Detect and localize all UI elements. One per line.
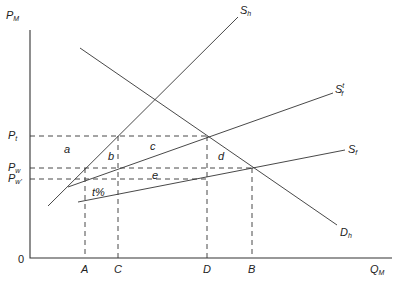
quantity-labels: ACDB xyxy=(80,263,255,275)
curve-Sf_tariff xyxy=(68,93,333,187)
curve-label-Sf_tariff: Stf xyxy=(335,82,345,97)
area-label: d xyxy=(218,150,225,162)
area-label: t% xyxy=(92,186,105,198)
x-axis-label: QM xyxy=(370,263,385,276)
curves: ShStfSfDh xyxy=(48,4,358,239)
curve-label-Sf: Sf xyxy=(348,143,358,156)
curve-Dh xyxy=(80,48,337,225)
area-label: a xyxy=(64,143,70,155)
axes xyxy=(30,30,392,258)
quantity-label: C xyxy=(114,263,122,275)
quantity-label: D xyxy=(203,263,211,275)
area-label: b xyxy=(108,150,114,162)
quantity-label: A xyxy=(80,263,88,275)
diagram-canvas: ShStfSfDh PM QM 0 PtPwPw' ACDB abcdet% xyxy=(0,0,401,282)
tariff-diagram: ShStfSfDh PM QM 0 PtPwPw' ACDB abcdet% xyxy=(0,0,401,282)
origin-label: 0 xyxy=(18,253,24,265)
price-label: Pt xyxy=(8,129,18,142)
quantity-label: B xyxy=(248,263,255,275)
area-label: e xyxy=(152,169,158,181)
price-labels: PtPwPw' xyxy=(8,129,22,185)
curve-Sh xyxy=(48,17,238,206)
y-axis-label: PM xyxy=(6,9,19,22)
area-label: c xyxy=(150,140,156,152)
curve-label-Dh: Dh xyxy=(340,226,352,239)
curve-label-Sh: Sh xyxy=(240,4,251,17)
